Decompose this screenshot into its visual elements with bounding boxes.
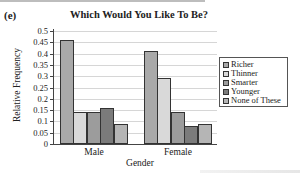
legend-item-none: None of These — [223, 96, 284, 105]
gridline — [54, 65, 217, 66]
y-tick-label: 0.35 — [18, 60, 48, 70]
gridline — [54, 42, 217, 43]
gridline — [54, 99, 217, 100]
y-tick — [50, 76, 54, 77]
gridline — [54, 31, 217, 32]
y-tick — [50, 144, 54, 145]
bar-female-richer — [144, 51, 158, 144]
plot-area — [54, 31, 217, 144]
y-tick-label: 0.15 — [18, 105, 48, 115]
y-tick — [50, 42, 54, 43]
swatch-icon — [223, 71, 229, 77]
x-category-male: Male — [64, 147, 124, 157]
bar-male-richer — [60, 40, 74, 144]
bar-female-thinner — [157, 78, 171, 144]
x-axis-label: Gender — [110, 158, 170, 168]
y-tick — [50, 31, 54, 32]
y-tick — [50, 54, 54, 55]
bar-male-thinner — [73, 112, 87, 144]
y-tick-label: 0.25 — [18, 83, 48, 93]
x-category-female: Female — [148, 147, 208, 157]
y-tick — [50, 133, 54, 134]
bar-male-smarter — [87, 112, 101, 144]
bar-male-younger — [100, 108, 114, 144]
y-tick-label: 0.05 — [18, 128, 48, 138]
y-tick-label: 0.1 — [18, 116, 48, 126]
gridline — [54, 88, 217, 89]
y-tick — [50, 110, 54, 111]
y-tick-label: 0.5 — [18, 26, 48, 36]
panel-label: (e) — [4, 9, 16, 21]
y-tick-label: 0 — [18, 139, 48, 149]
bar-female-none-of-these — [198, 124, 212, 144]
y-tick — [50, 65, 54, 66]
bar-female-smarter — [171, 112, 185, 144]
y-tick-label: 0.2 — [18, 94, 48, 104]
top-rule — [0, 0, 205, 2]
gridline — [54, 110, 217, 111]
y-tick — [50, 88, 54, 89]
legend: Richer Thinner Smarter Younger None of T… — [219, 57, 288, 107]
swatch-icon — [223, 89, 229, 95]
bar-male-none-of-these — [114, 124, 128, 144]
y-tick-label: 0.4 — [18, 49, 48, 59]
gridline — [54, 54, 217, 55]
y-tick-label: 0.3 — [18, 71, 48, 81]
faint-text-bleed — [200, 170, 300, 173]
y-tick-label: 0.45 — [18, 37, 48, 47]
chart-title: Which Would You Like To Be? — [70, 9, 208, 20]
x-axis — [53, 144, 217, 145]
gridline — [54, 76, 217, 77]
y-tick — [50, 99, 54, 100]
bar-female-younger — [184, 126, 198, 144]
swatch-icon — [223, 98, 229, 104]
swatch-icon — [223, 62, 229, 68]
y-tick — [50, 121, 54, 122]
swatch-icon — [223, 80, 229, 86]
